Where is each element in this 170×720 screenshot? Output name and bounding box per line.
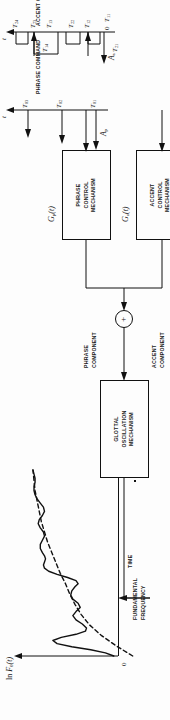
accent-command-axis-label: t	[1, 38, 8, 40]
accent-command-amplitude-label: Aa	[108, 53, 117, 60]
accent-tick-label-T11: T11	[104, 14, 112, 22]
accent-tick-label-T14: T14	[42, 44, 50, 52]
accent-tick-label-T24: T24	[12, 20, 20, 28]
accent-tick-label-T21: T21	[112, 44, 120, 52]
accent-command-axis	[0, 0, 170, 720]
accent-tick-label-T23: T23	[30, 20, 38, 28]
accent-tick-label-T12: T12	[84, 20, 92, 28]
fujisaki-model-figure: t 0 ln F0(t) TIME FUNDAMENTAL FREQUENCY …	[0, 0, 170, 720]
accent-tick-label-T13: T13	[46, 20, 54, 28]
accent-command-origin-label: 0	[104, 27, 111, 31]
accent-tick-label-T22: T22	[68, 20, 76, 28]
